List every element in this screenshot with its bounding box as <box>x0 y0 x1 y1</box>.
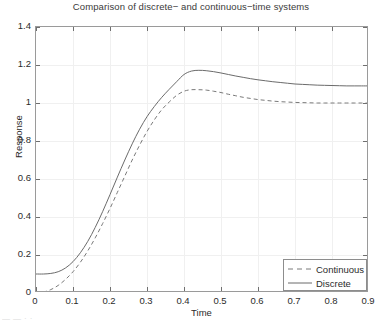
series-line-discrete <box>36 70 368 274</box>
y-tick-label: 0.2 <box>3 248 31 259</box>
y-tick-label: 0.4 <box>3 210 31 221</box>
legend[interactable]: Continuous Discrete <box>283 259 367 291</box>
legend-label: Continuous <box>313 264 364 275</box>
x-tick-label: 0.4 <box>166 295 200 306</box>
legend-label: Discrete <box>313 278 351 289</box>
x-tick-label: 0.7 <box>277 295 311 306</box>
plot-area <box>35 26 368 292</box>
chart-title: Comparison of discrete− and continuous−t… <box>0 1 382 12</box>
legend-item-discrete[interactable]: Discrete <box>284 276 366 290</box>
x-tick-label: 0.1 <box>55 295 89 306</box>
x-tick-label: 0.3 <box>129 295 163 306</box>
y-axis-label: Response <box>13 97 24 177</box>
y-tick-label: 1.2 <box>3 58 31 69</box>
x-tick-label: 0.6 <box>240 295 274 306</box>
x-tick-label: 0.9 <box>351 295 382 306</box>
legend-item-continuous[interactable]: Continuous <box>284 262 366 276</box>
x-axis-label: Time <box>35 307 368 318</box>
solid-line-icon <box>287 278 313 288</box>
series-lines <box>36 27 368 292</box>
figure-canvas: Comparison of discrete− and continuous−t… <box>0 0 382 325</box>
x-tick-label: 0.5 <box>203 295 237 306</box>
dashed-line-icon <box>287 264 313 274</box>
x-tick-label: 0.2 <box>92 295 126 306</box>
y-tick-label: 0 <box>3 286 31 297</box>
clipped-caption-artifact: — — · · <box>2 314 62 322</box>
y-tick-label: 1.4 <box>3 20 31 31</box>
x-tick-label: 0.8 <box>314 295 348 306</box>
